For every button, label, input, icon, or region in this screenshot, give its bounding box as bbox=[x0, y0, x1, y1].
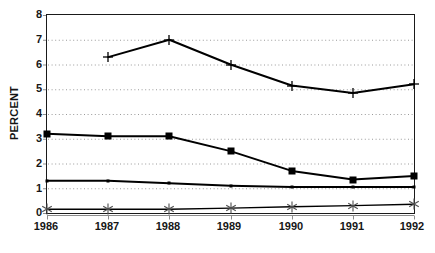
series-plus bbox=[103, 35, 419, 98]
y-tick-label-4: 4 bbox=[26, 107, 42, 119]
line-chart: PERCENT 8 7 6 5 4 3 2 1 0 1986 1987 1988… bbox=[0, 0, 435, 253]
series-square-marker-1991 bbox=[350, 177, 356, 183]
series-plus-marker-1990 bbox=[287, 81, 297, 91]
y-tick-label-7: 7 bbox=[26, 33, 42, 45]
series-square-marker-1989 bbox=[228, 148, 234, 154]
data-series-group bbox=[42, 35, 419, 215]
series-plus-path bbox=[108, 40, 414, 93]
y-tick-label-8: 8 bbox=[26, 8, 42, 20]
series-plus-marker-1991 bbox=[348, 88, 358, 98]
series-line-marker-1992 bbox=[413, 186, 416, 189]
x-tick-label-1987: 1987 bbox=[85, 220, 129, 232]
x-tick-label-1989: 1989 bbox=[207, 220, 251, 232]
series-square bbox=[44, 131, 417, 183]
series-line-marker-1991 bbox=[352, 186, 355, 189]
series-line-marker-1989 bbox=[230, 185, 233, 188]
series-line-marker-1986 bbox=[46, 180, 49, 183]
y-tick-label-3: 3 bbox=[26, 132, 42, 144]
y-axis-title: PERCENT bbox=[8, 78, 20, 148]
series-plus-marker-1987 bbox=[103, 52, 113, 62]
plot-area bbox=[0, 0, 435, 253]
series-plus-marker-1988 bbox=[164, 35, 174, 45]
plot-frame bbox=[47, 15, 415, 214]
series-square-marker-1988 bbox=[166, 133, 172, 139]
series-square-path bbox=[47, 134, 414, 180]
y-tick-label-5: 5 bbox=[26, 82, 42, 94]
series-star bbox=[42, 199, 419, 215]
y-tick-label-6: 6 bbox=[26, 58, 42, 70]
x-tick-label-1990: 1990 bbox=[269, 220, 313, 232]
y-tick-label-2: 2 bbox=[26, 157, 42, 169]
series-line bbox=[46, 180, 416, 189]
x-tick-label-1991: 1991 bbox=[330, 220, 374, 232]
series-line-marker-1987 bbox=[107, 180, 110, 183]
x-tick-label-1988: 1988 bbox=[146, 220, 190, 232]
series-plus-marker-1989 bbox=[226, 60, 236, 70]
y-tick-label-1: 1 bbox=[26, 182, 42, 194]
series-square-marker-1986 bbox=[44, 131, 50, 137]
series-square-marker-1990 bbox=[289, 168, 295, 174]
series-plus-marker-1992 bbox=[409, 79, 419, 89]
series-square-marker-1992 bbox=[411, 173, 417, 179]
series-square-marker-1987 bbox=[105, 133, 111, 139]
x-tick-label-1986: 1986 bbox=[24, 220, 68, 232]
series-line-marker-1988 bbox=[168, 182, 171, 185]
series-line-marker-1990 bbox=[291, 186, 294, 189]
x-tick-label-1992: 1992 bbox=[390, 220, 434, 232]
y-tick-label-0: 0 bbox=[26, 206, 42, 218]
